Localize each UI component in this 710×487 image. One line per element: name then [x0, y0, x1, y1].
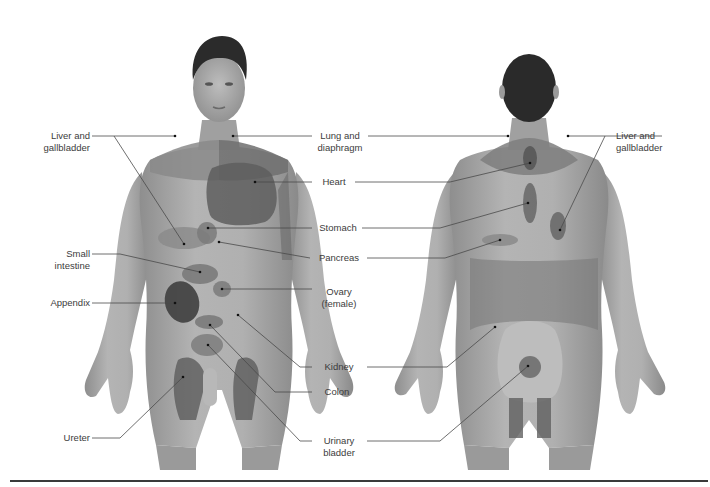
- label-lung-diaphragm: Lung and diaphragm: [310, 130, 370, 153]
- body-figures: [0, 0, 710, 487]
- ureter-zone-back-left: [537, 398, 551, 438]
- label-small-intestine: Small intestine: [30, 248, 90, 271]
- label-ureter: Ureter: [30, 432, 90, 444]
- small-intestine-zone: [182, 264, 218, 284]
- label-liver-gallbladder-back: Liver and gallbladder: [616, 130, 686, 153]
- label-kidney: Kidney: [312, 361, 366, 373]
- label-colon: Colon: [312, 386, 362, 398]
- referred-pain-diagram: Liver and gallbladder Small intestine Ap…: [0, 0, 710, 487]
- stomach-zone-back: [523, 183, 537, 223]
- colon-zone: [195, 315, 223, 329]
- label-stomach: Stomach: [312, 222, 364, 234]
- bladder-zone-back: [519, 356, 541, 378]
- stomach-zone: [197, 222, 217, 244]
- left-thigh: [242, 445, 282, 470]
- liver-zone-front-shoulder: [150, 140, 219, 181]
- back-head-hair: [502, 54, 556, 122]
- label-heart: Heart: [310, 176, 358, 188]
- heart-zone-back: [523, 146, 537, 170]
- bottom-rule: [10, 480, 708, 482]
- label-appendix: Appendix: [20, 297, 90, 309]
- back-figure: [395, 54, 666, 470]
- kidney-zone-back: [470, 258, 598, 330]
- label-pancreas: Pancreas: [310, 252, 368, 264]
- ureter-zone-back-right: [509, 398, 523, 438]
- liver-zone-back: [550, 212, 566, 240]
- heart-zone: [206, 163, 276, 226]
- label-liver-gallbladder-front: Liver and gallbladder: [30, 130, 90, 153]
- genitals: [203, 368, 217, 406]
- label-ovary: Ovary (female): [314, 286, 364, 309]
- right-thigh: [156, 445, 196, 470]
- label-urinary-bladder: Urinary bladder: [312, 435, 366, 458]
